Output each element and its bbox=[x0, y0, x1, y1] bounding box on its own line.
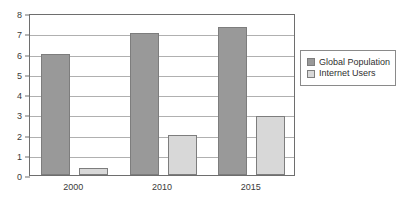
y-axis-tick: 5 bbox=[17, 71, 30, 80]
legend-item-label: Global Population bbox=[319, 57, 390, 67]
y-axis-tick-label: 3 bbox=[17, 112, 25, 121]
bar bbox=[41, 54, 70, 176]
y-axis-tick: 6 bbox=[17, 51, 30, 60]
y-axis-tick: 7 bbox=[17, 31, 30, 40]
y-axis-tick-label: 4 bbox=[17, 92, 25, 101]
legend-item: Global Population bbox=[307, 57, 389, 67]
bar bbox=[79, 168, 108, 175]
y-axis-tick-label: 8 bbox=[17, 11, 25, 20]
y-axis-tick-label: 0 bbox=[17, 173, 25, 182]
y-axis-tick-label: 1 bbox=[17, 152, 25, 161]
plot-area: 012345678 bbox=[29, 14, 295, 176]
y-axis-tick: 2 bbox=[17, 132, 30, 141]
legend-item-label: Internet Users bbox=[319, 68, 376, 78]
legend-item: Internet Users bbox=[307, 68, 389, 78]
bar bbox=[218, 27, 247, 175]
y-axis-tick: 8 bbox=[17, 11, 30, 20]
chart-legend: Global Population Internet Users bbox=[300, 50, 396, 86]
bar bbox=[168, 135, 197, 176]
y-axis-tick: 3 bbox=[17, 112, 30, 121]
legend-swatch-icon bbox=[307, 58, 315, 66]
y-axis-tick-label: 5 bbox=[17, 71, 25, 80]
x-axis-tick-label: 2015 bbox=[241, 182, 261, 192]
bar bbox=[130, 33, 159, 175]
y-axis-tick-label: 2 bbox=[17, 132, 25, 141]
y-axis-tick: 4 bbox=[17, 92, 30, 101]
y-axis-tick: 0 bbox=[17, 173, 30, 182]
bar bbox=[256, 116, 285, 175]
bars-layer bbox=[30, 15, 294, 175]
y-axis-tick: 1 bbox=[17, 152, 30, 161]
y-axis-tick-mark bbox=[25, 177, 30, 178]
x-axis-tick-label: 2010 bbox=[152, 182, 172, 192]
y-axis-tick-label: 7 bbox=[17, 31, 25, 40]
y-axis-tick-label: 6 bbox=[17, 51, 25, 60]
legend-swatch-icon bbox=[307, 70, 315, 78]
x-axis-tick-label: 2000 bbox=[63, 182, 83, 192]
bar-chart: 012345678 200020102015 Global Population… bbox=[0, 0, 418, 222]
